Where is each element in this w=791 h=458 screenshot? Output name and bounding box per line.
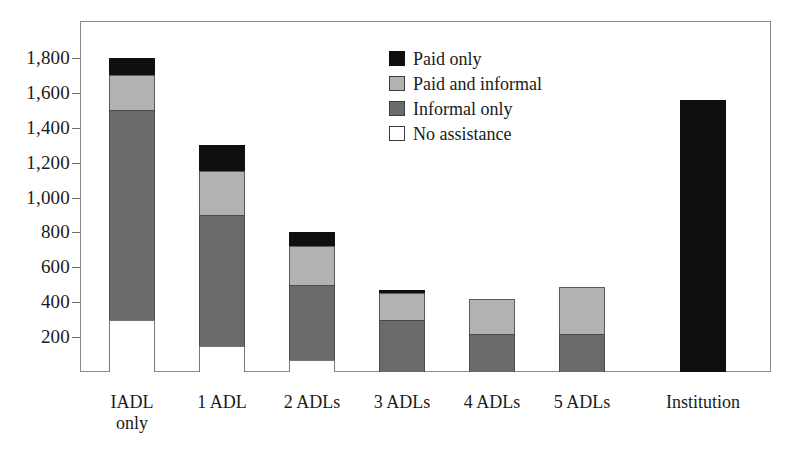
y-axis-tick-label-wrap: 1,600 (0, 83, 70, 102)
x-axis-category-label: 5 ADLs (527, 392, 637, 413)
legend-label-no-assistance: No assistance (413, 124, 511, 144)
y-axis-tick-label-wrap: 1,200 (0, 153, 70, 172)
y-axis-tick-label-wrap: 600 (0, 257, 70, 276)
y-axis-tick-label: 400 (8, 292, 70, 311)
y-axis-tick-label: 1,000 (8, 188, 70, 207)
y-axis-tick-label: 1,800 (8, 48, 70, 67)
swatch-informal-only-icon (389, 101, 405, 116)
legend-item-paid-only[interactable]: Paid only (389, 46, 619, 71)
y-axis-tick-label-wrap: 400 (0, 292, 70, 311)
y-axis-tick-label-wrap: 800 (0, 222, 70, 241)
legend-item-no-assistance[interactable]: No assistance (389, 121, 619, 146)
y-axis-tick-label-wrap: 1,800 (0, 48, 70, 67)
legend-label-informal-only: Informal only (413, 99, 512, 119)
y-axis-tick-label: 800 (8, 222, 70, 241)
swatch-paid-only-icon (389, 51, 405, 66)
y-axis-tick-label-wrap: 200 (0, 327, 70, 346)
y-axis-tick-label: 1,400 (8, 118, 70, 137)
y-axis-tick-label: 600 (8, 257, 70, 276)
legend-item-paid-and-informal[interactable]: Paid and informal (389, 71, 619, 96)
legend-label-paid-only: Paid only (413, 49, 482, 69)
legend-label-paid-and-informal: Paid and informal (413, 74, 542, 94)
y-axis-tick-label-wrap: 1,400 (0, 118, 70, 137)
y-axis-tick-label: 1,600 (8, 83, 70, 102)
swatch-no-assistance-icon (389, 126, 405, 141)
chart-legend: Paid only Paid and informal Informal onl… (389, 46, 619, 146)
swatch-paid-and-informal-icon (389, 76, 405, 91)
legend-item-informal-only[interactable]: Informal only (389, 96, 619, 121)
y-axis-tick-label: 1,200 (8, 153, 70, 172)
y-axis-tick-label-wrap: 1,000 (0, 188, 70, 207)
stacked-bar-chart: 2004006008001,0001,2001,4001,6001,800 IA… (0, 0, 791, 458)
x-axis-category-label: Institution (648, 392, 758, 413)
y-axis-tick-label: 200 (8, 327, 70, 346)
